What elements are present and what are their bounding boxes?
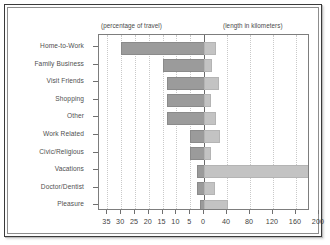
xaxis-percent-35-tick xyxy=(106,210,107,214)
bar-kilometers xyxy=(204,112,216,125)
bar-kilometers xyxy=(204,77,219,90)
bar-percentage xyxy=(167,77,206,90)
xaxis-percent-10-tick xyxy=(175,210,176,214)
category-tick xyxy=(93,187,98,188)
category-tick xyxy=(93,81,98,82)
xaxis-km-40-label: 40 xyxy=(216,217,236,226)
xaxis-percent-25-tick xyxy=(134,210,135,214)
bar-kilometers xyxy=(204,59,212,72)
xaxis-km-120-label: 120 xyxy=(262,217,282,226)
category-tick xyxy=(93,152,98,153)
gridline-km-80 xyxy=(250,35,252,209)
category-label: Work Related xyxy=(43,130,84,137)
bar-kilometers xyxy=(204,200,228,210)
left-axis-header-label: (percentage of travel) xyxy=(101,22,162,29)
gridline-percent-30 xyxy=(121,35,123,209)
chart-figure-inner: (percentage of travel) (length in kilome… xyxy=(7,7,319,234)
category-label: Civic/Religious xyxy=(39,148,84,155)
category-label: Doctor/Dentist xyxy=(41,183,84,190)
chart-figure-frame: (percentage of travel) (length in kilome… xyxy=(4,4,322,237)
category-label: Pleasure xyxy=(57,200,84,207)
gridline-km-160 xyxy=(296,35,298,209)
gridline-percent-20 xyxy=(149,35,151,209)
bar-kilometers xyxy=(204,42,216,55)
bar-kilometers xyxy=(204,94,211,107)
bar-kilometers xyxy=(204,165,309,178)
xaxis-percent-15-tick xyxy=(162,210,163,214)
xaxis-percent-20-tick xyxy=(148,210,149,214)
xaxis-percent-30-tick xyxy=(120,210,121,214)
category-tick xyxy=(93,134,98,135)
gridline-km-40 xyxy=(227,35,229,209)
xaxis-percent-5-tick xyxy=(189,210,190,214)
category-label: Vacations xyxy=(55,165,84,172)
category-tick xyxy=(93,169,98,170)
xaxis-km-80-tick xyxy=(249,210,250,214)
plot-area xyxy=(98,34,309,210)
bar-kilometers xyxy=(204,147,211,160)
category-tick xyxy=(93,46,98,47)
xaxis-km-120-tick xyxy=(272,210,273,214)
xaxis-percent-0-tick xyxy=(203,210,204,214)
xaxis-km-160-label: 160 xyxy=(285,217,305,226)
bar-percentage xyxy=(121,42,206,55)
gridline-km-120 xyxy=(273,35,275,209)
category-tick xyxy=(93,99,98,100)
gridline-percent-25 xyxy=(135,35,137,209)
bar-kilometers xyxy=(204,182,215,195)
xaxis-percent-0-label: 0 xyxy=(193,217,213,226)
bar-percentage xyxy=(163,59,206,72)
xaxis-km-160-tick xyxy=(295,210,296,214)
category-tick xyxy=(93,116,98,117)
category-tick xyxy=(93,64,98,65)
xaxis-km-40-tick xyxy=(226,210,227,214)
category-label: Family Business xyxy=(34,60,84,67)
category-tick xyxy=(93,204,98,205)
category-label: Visit Friends xyxy=(47,77,84,84)
xaxis-km-200-tick xyxy=(318,210,319,214)
category-label: Shopping xyxy=(55,95,84,102)
bar-percentage xyxy=(167,94,206,107)
bar-kilometers xyxy=(204,130,220,143)
right-axis-header-label: (length in kilometers) xyxy=(223,22,283,29)
xaxis-km-200-label: 200 xyxy=(308,217,328,226)
category-label: Other xyxy=(67,112,84,119)
gridline-percent-35 xyxy=(107,35,109,209)
category-label: Home-to-Work xyxy=(40,42,84,49)
xaxis-km-80-label: 80 xyxy=(239,217,259,226)
bar-percentage xyxy=(167,112,206,125)
